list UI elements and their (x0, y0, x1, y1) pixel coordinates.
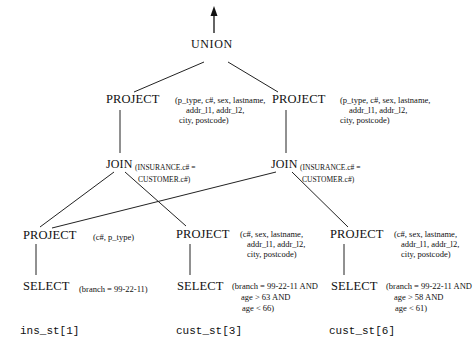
project-top-left-operator: PROJECT (106, 93, 160, 106)
project-cust3-args-3: city, postcode) (247, 249, 297, 259)
edge-joinleft-project-ins (40, 172, 114, 227)
join-left-args-2: CUSTOMER.c#) (138, 175, 190, 185)
select-ins-operator: SELECT (23, 280, 69, 293)
edge-union-project-right (228, 62, 278, 92)
project-cust6-args-2: addr_l1, addr_l2, (401, 239, 459, 249)
edge-union-project-left (134, 62, 204, 92)
project-top-right-args-2: addr_l1, addr_l2, (349, 105, 407, 115)
project-top-left-args-1: (p_type, c#, sex, lastname, (175, 95, 265, 105)
project-cust3-operator: PROJECT (176, 228, 230, 241)
select-cust6-args-3: age < 61) (395, 303, 427, 313)
project-cust3-args-2: addr_l1, addr_l2, (247, 239, 305, 249)
fragment-label-ins: ins_st[1] (20, 325, 79, 337)
project-cust6-args-3: city, postcode) (401, 249, 451, 259)
select-cust6-operator: SELECT (331, 280, 377, 293)
fragment-label-cust3: cust_st[3] (176, 325, 242, 337)
select-cust3-operator: SELECT (177, 280, 223, 293)
join-right-args-1: (INSURANCE.c# = (300, 163, 360, 173)
project-top-right-args-3: city, postcode) (340, 115, 390, 125)
project-cust6-args-1: (c#, sex, lastname, (394, 229, 457, 239)
project-top-right-operator: PROJECT (272, 93, 326, 106)
select-ins-args-1: (branch = 99-22-11) (79, 284, 148, 294)
project-top-left-args-3: city, postcode) (179, 115, 229, 125)
union-node: UNION (191, 38, 233, 50)
project-cust6-operator: PROJECT (330, 228, 384, 241)
project-ins-args-1: (c#, p_type) (93, 232, 134, 242)
project-top-left-args-2: addr_l1, addr_l2, (186, 105, 244, 115)
select-cust3-args-2: age > 63 AND (241, 292, 290, 302)
join-right-operator: JOIN (271, 158, 297, 170)
select-cust6-args-2: age > 58 AND (394, 292, 443, 302)
join-left-operator: JOIN (106, 158, 132, 170)
select-cust3-args-3: age < 66) (242, 303, 274, 313)
project-top-right-args-1: (p_type, c#, sex, lastname, (340, 95, 430, 105)
join-right-args-2: CUSTOMER.c#) (302, 175, 354, 185)
fragment-label-cust6: cust_st[6] (329, 325, 395, 337)
project-ins-operator: PROJECT (23, 229, 77, 242)
select-cust6-args-1: (branch = 99-22-11 AND (386, 281, 472, 291)
select-cust3-args-1: (branch = 99-22-11 AND (232, 281, 318, 291)
project-cust3-args-1: (c#, sex, lastname, (240, 229, 303, 239)
arrow-head-icon (211, 6, 218, 16)
join-left-args-1: (INSURANCE.c# = (135, 163, 195, 173)
